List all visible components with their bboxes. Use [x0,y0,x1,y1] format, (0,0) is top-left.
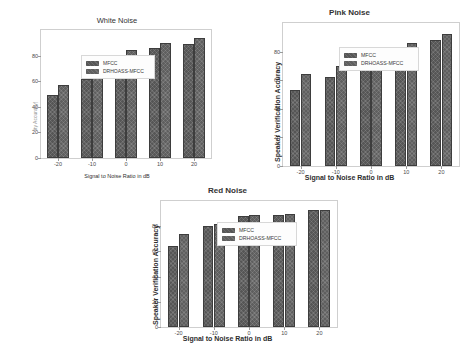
legend-item-drhoass-mfcc: DRHOASS-MFCC [222,234,291,242]
legend-swatch-icon [222,236,235,241]
legend-swatch-icon [86,61,99,66]
y-axis-tick-mark [38,132,41,133]
legend: MFCC DRHOASS-MFCC [339,47,419,71]
bar [81,79,91,158]
bar [179,234,190,327]
bar-group-container [41,30,211,158]
bar-group [47,30,68,158]
x-axis-tick-mark [406,166,407,169]
chart-title: White Noise [6,16,228,25]
legend-item-mfcc: MFCC [86,59,149,67]
bar-group [430,23,452,166]
chart-red-noise: Red Noise MFCC DRHOASS-MFCC -20-10010200… [110,183,345,364]
bar [194,38,204,158]
bar [336,66,347,166]
legend-swatch-icon [344,61,357,66]
y-axis-label: Speaker Verification Accuracy [274,62,281,162]
bar [325,77,336,166]
bar-group [115,30,136,158]
y-axis-tick-mark [38,81,41,82]
legend-swatch-icon [222,228,235,233]
figure-three-noise-barcharts: White Noise MFCC DRHOASS-MFCC -20-100102… [0,0,467,364]
bar-group-container [283,23,459,166]
x-axis-label: Signal to Noise Ratio in dB [232,174,467,181]
bar-group [149,30,170,158]
x-axis-label: Signal to Noise Ratio in dB [110,335,345,342]
x-axis-tick-mark [301,166,302,169]
legend-swatch-icon [86,69,99,74]
bar-group [238,201,260,327]
legend-label: MFCC [103,60,117,66]
legend-item-mfcc: MFCC [344,51,413,59]
bar-group [325,23,347,166]
y-axis-label: ity Accuracy) [32,102,38,130]
bar [442,34,453,166]
bar [183,44,193,158]
legend: MFCC DRHOASS-MFCC [81,55,155,79]
y-axis-tick-mark [38,107,41,108]
bar-group [395,23,417,166]
legend-label: DRHOASS-MFCC [239,235,281,241]
x-axis-tick-mark [371,166,372,169]
bar-group [308,201,330,327]
y-axis-tick-mark [38,158,41,159]
legend-item-drhoass-mfcc: DRHOASS-MFCC [344,59,413,67]
bar [47,95,57,158]
bar [160,43,170,158]
bar-group [290,23,312,166]
legend-label: MFCC [239,227,254,233]
chart-title: Pink Noise [232,8,467,17]
chart-title: Red Noise [110,186,345,195]
bar [58,85,68,158]
x-axis-tick-mark [319,327,320,330]
y-axis-tick-mark [158,327,161,328]
x-axis-tick-mark [336,166,337,169]
bar [290,90,301,166]
plot-area: MFCC DRHOASS-MFCC -20-1001020020406080 [160,200,338,328]
y-axis-tick-mark [280,52,283,53]
x-axis-label: Signal to Noise Ratio in dB [6,173,228,179]
bar-group [273,201,295,327]
x-axis-tick-mark [126,158,127,161]
legend-label: MFCC [361,52,376,58]
chart-pink-noise: Pink Noise MFCC DRHOASS-MFCC -20-1001020… [232,2,467,186]
x-axis-tick-mark [249,327,250,330]
bar [360,54,371,166]
bar-group [203,201,225,327]
legend-swatch-icon [344,53,357,58]
plot-area: MFCC DRHOASS-MFCC -20-1001020020406080 [282,22,460,167]
x-axis-tick-mark [441,166,442,169]
legend-label: DRHOASS-MFCC [361,60,403,66]
bar-group-container [161,201,337,327]
y-axis-label: Speaker Verification Accuracy [152,225,159,325]
plot-area: MFCC DRHOASS-MFCC -20-1001020020406080 [40,29,212,159]
bar [301,74,312,166]
bar [308,210,319,327]
x-axis-tick-mark [160,158,161,161]
bar [203,226,214,327]
legend: MFCC DRHOASS-MFCC [217,222,297,246]
bar [320,210,331,327]
bar-group [81,30,102,158]
x-axis-tick-mark [284,327,285,330]
x-axis-tick-mark [179,327,180,330]
bar [92,66,102,158]
chart-white-noise: White Noise MFCC DRHOASS-MFCC -20-100102… [6,8,228,186]
y-axis-tick-mark [280,166,283,167]
x-axis-tick-mark [214,327,215,330]
legend-item-drhoass-mfcc: DRHOASS-MFCC [86,67,149,75]
x-axis-tick-mark [92,158,93,161]
bar-group [360,23,382,166]
bar-group [168,201,190,327]
legend-item-mfcc: MFCC [222,226,291,234]
legend-label: DRHOASS-MFCC [103,68,144,74]
x-axis-tick-mark [194,158,195,161]
y-axis-tick-mark [38,56,41,57]
bar-group [183,30,204,158]
x-axis-tick-mark [58,158,59,161]
bar [168,246,179,327]
bar [430,40,441,166]
